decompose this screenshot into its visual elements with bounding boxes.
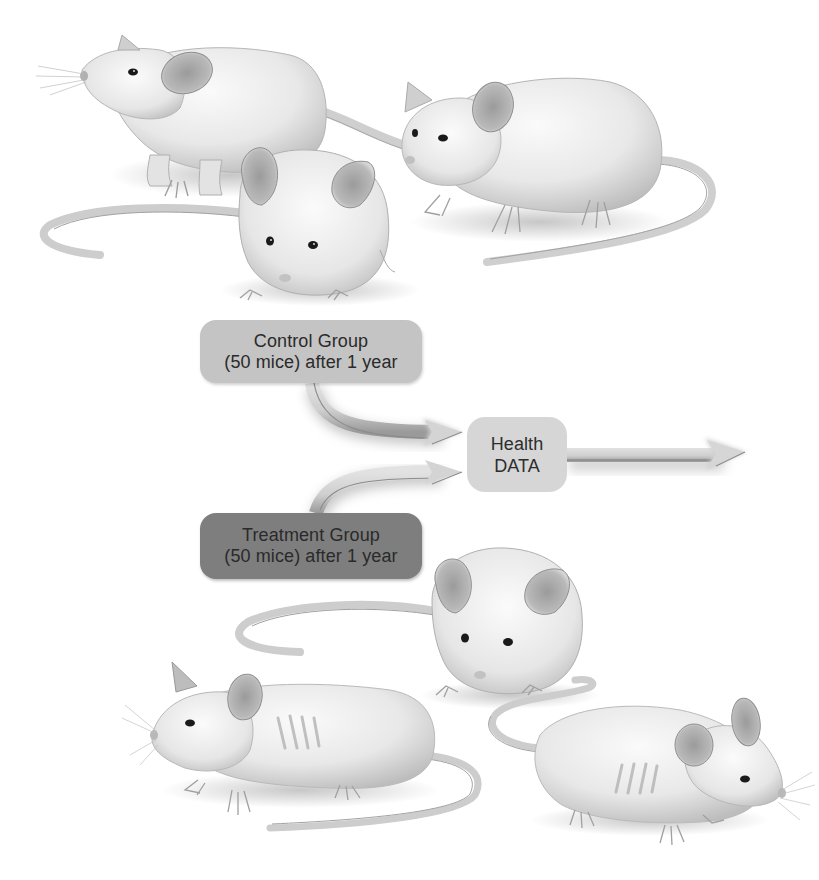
health-data-label: Health DATA xyxy=(467,417,567,492)
control-group-mice xyxy=(36,35,712,306)
control-group-title: Control Group xyxy=(254,331,368,352)
arrow-treatment-to-data xyxy=(316,460,462,518)
arrow-data-to-output xyxy=(567,438,746,471)
health-data-line1: Health xyxy=(491,433,544,455)
treatment-group-label: Treatment Group (50 mice) after 1 year xyxy=(200,513,422,579)
mouse-icon xyxy=(402,78,712,262)
arrow-control-to-data xyxy=(312,383,462,446)
control-group-subtitle: (50 mice) after 1 year xyxy=(224,352,397,373)
illustration-canvas xyxy=(0,0,819,880)
health-data-line2: DATA xyxy=(494,455,540,477)
control-group-label: Control Group (50 mice) after 1 year xyxy=(200,320,422,383)
treatment-group-subtitle: (50 mice) after 1 year xyxy=(224,546,397,567)
treatment-group-mice xyxy=(122,548,815,845)
mouse-icon-thin xyxy=(122,662,478,828)
treatment-group-title: Treatment Group xyxy=(242,525,380,546)
